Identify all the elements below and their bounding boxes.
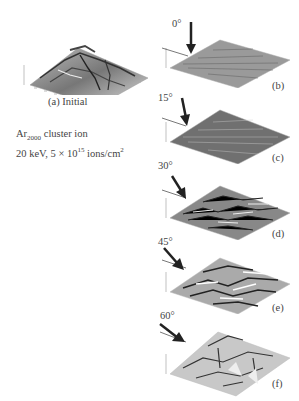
panel-b-label: (b) xyxy=(272,80,284,91)
ion-conditions: Ar2000 cluster ion 20 keV, 5 × 1015 ions… xyxy=(16,128,124,160)
panel-b-angle: 0° xyxy=(172,18,181,29)
panel-a-surface-plot xyxy=(10,20,150,95)
panel-e-label: (e) xyxy=(272,302,284,313)
panel-d-label: (d) xyxy=(272,228,284,239)
panel-a-caption: (a) Initial xyxy=(48,96,87,107)
panel-e-angle: 45° xyxy=(158,236,173,247)
panel-f-label: (f) xyxy=(272,378,283,389)
panel-d-angle: 30° xyxy=(158,160,173,171)
panel-c-angle: 15° xyxy=(158,92,173,103)
ion-energy-dose: 20 keV, 5 × 1015 ions/cm2 xyxy=(16,144,124,160)
panel-c-label: (c) xyxy=(272,152,284,163)
ion-species: Ar2000 cluster ion xyxy=(16,128,124,144)
panel-f-angle: 60° xyxy=(160,310,175,321)
